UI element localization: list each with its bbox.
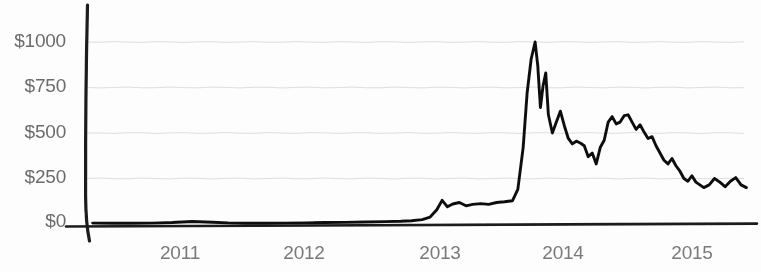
y-axis-line — [86, 5, 90, 241]
y-tick-label: $0 — [45, 210, 66, 232]
chart-plot-area — [0, 0, 761, 272]
y-tick-label: $1000 — [14, 30, 66, 52]
y-tick-label: $750 — [25, 75, 66, 97]
axes-group — [66, 5, 757, 241]
gridline — [86, 87, 744, 88]
y-tick-label: $250 — [25, 166, 66, 188]
gridlines-group — [86, 42, 744, 179]
price-chart: $1000$750$500$250$0 20112012201320142015 — [0, 0, 761, 272]
x-tick-label: 2013 — [400, 242, 480, 264]
x-tick-label: 2014 — [523, 242, 603, 264]
gridline — [86, 42, 744, 43]
y-tick-label: $500 — [25, 121, 66, 143]
x-tick-label: 2012 — [264, 242, 344, 264]
x-tick-label: 2015 — [652, 242, 732, 264]
gridline — [86, 178, 744, 179]
x-tick-label: 2011 — [140, 242, 220, 264]
